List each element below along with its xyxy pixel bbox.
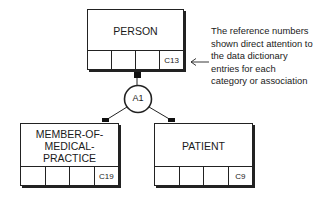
entity-cells: C9 <box>155 166 252 185</box>
cell <box>112 51 136 69</box>
cell <box>180 167 205 185</box>
reference-number: C19 <box>95 167 119 185</box>
cell <box>155 167 180 185</box>
entity-cells: C19 <box>21 166 118 185</box>
cell <box>88 51 112 69</box>
entity-patient[interactable]: PATIENT C9 <box>154 123 253 186</box>
reference-number: C13 <box>160 51 183 69</box>
entity-cells: C13 <box>88 50 183 69</box>
association-label: A1 <box>124 93 152 103</box>
connector-block-right <box>168 118 175 122</box>
entity-name: PERSON <box>88 10 183 51</box>
entity-person[interactable]: PERSON C13 <box>87 9 184 70</box>
entity-name: PATIENT <box>155 124 252 167</box>
cell <box>70 167 95 185</box>
cell <box>46 167 71 185</box>
cell <box>136 51 160 69</box>
annotation-note: The reference numbers shown direct atten… <box>211 25 313 88</box>
cell <box>204 167 229 185</box>
entity-member-of-medical-practice[interactable]: MEMBER-OF- MEDICAL- PRACTICE C19 <box>20 123 119 186</box>
connector-block-left <box>102 118 109 122</box>
connector-block-top <box>134 72 141 78</box>
cell <box>21 167 46 185</box>
reference-number: C9 <box>229 167 253 185</box>
entity-name: MEMBER-OF- MEDICAL- PRACTICE <box>21 124 118 167</box>
